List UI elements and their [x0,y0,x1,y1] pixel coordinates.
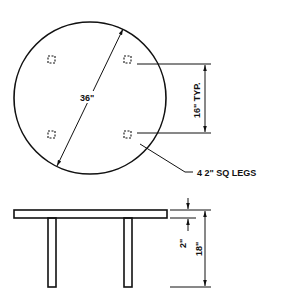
thickness-label: 2" [178,239,188,248]
top-view: 36" 16" TYP. 4 2" SQ LEGS [14,22,256,178]
leg-square-br [124,131,131,138]
side-view: 2" 18" [14,198,211,287]
leg-square-tl [48,56,55,63]
leg-square-bl [48,131,55,138]
leg-spacing-label: 16" TYP. [192,82,202,118]
leg-callout-label: 4 2" SQ LEGS [197,168,256,178]
diameter-label: 36" [80,93,94,103]
table-drawing: 36" 16" TYP. 4 2" SQ LEGS 2" 18" [0,0,284,302]
leg-left [48,218,56,287]
tabletop-side [14,210,167,218]
leg-right [124,218,132,287]
height-label: 18" [194,242,204,256]
leg-square-tr [124,56,131,63]
